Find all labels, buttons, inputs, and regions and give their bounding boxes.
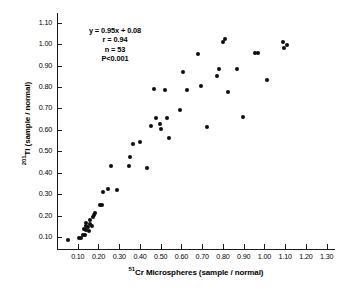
x-axis-tick [264, 244, 265, 249]
x-axis-tick [119, 244, 120, 249]
data-point [154, 116, 158, 120]
data-point [66, 238, 70, 242]
data-point [109, 164, 113, 168]
x-axis-tick [244, 244, 245, 249]
regression-equation: y = 0.95x + 0.08 [72, 26, 158, 35]
y-axis-tick [58, 44, 62, 45]
y-axis-tick-label: 0.90 [16, 62, 52, 70]
x-axis-tick [202, 244, 203, 249]
x-axis-tick [181, 244, 182, 249]
data-point [165, 116, 169, 120]
data-point [185, 88, 189, 92]
data-point [106, 187, 110, 191]
data-point [167, 136, 171, 140]
y-axis-title: 201Tl (sample / normal) [23, 39, 32, 209]
x-axis-line [57, 249, 335, 250]
y-axis-tick [58, 237, 62, 238]
y-axis-tick-label: 1.10 [16, 19, 52, 27]
y-axis-tick-label: 0.70 [16, 104, 52, 112]
y-axis-line [57, 13, 58, 249]
y-axis-tick [58, 87, 62, 88]
data-point [149, 124, 153, 128]
x-axis-tick-label: 0.10 [71, 253, 84, 261]
y-axis-tick [58, 108, 62, 109]
y-axis-tick [58, 173, 62, 174]
y-axis-title-base: Tl (sample / normal) [23, 82, 32, 156]
data-point [152, 87, 156, 91]
data-point [181, 70, 185, 74]
x-axis-tick [98, 244, 99, 249]
y-axis-tick-label: 0.30 [16, 190, 52, 198]
data-point [196, 52, 200, 56]
data-point [127, 164, 131, 168]
y-axis-tick [58, 23, 62, 24]
data-point [90, 224, 94, 228]
x-axis-tick [140, 244, 141, 249]
data-point [163, 88, 167, 92]
data-point [138, 140, 142, 144]
y-axis-tick-label: 1.00 [16, 40, 52, 48]
data-point [145, 166, 149, 170]
x-axis-tick-label: 0.30 [113, 253, 126, 261]
data-point [205, 125, 209, 129]
data-point [256, 51, 260, 55]
sample-size: n = 53 [72, 45, 158, 54]
x-axis-tick [78, 244, 79, 249]
data-point [217, 67, 221, 71]
data-point [158, 122, 162, 126]
x-axis-tick-label: 0.40 [133, 253, 146, 261]
data-point [223, 37, 227, 41]
data-point [235, 67, 239, 71]
data-point [101, 190, 105, 194]
y-axis-tick [58, 151, 62, 152]
data-point [226, 90, 230, 94]
x-axis-tick-label: 0.80 [216, 253, 229, 261]
y-axis-title-superscript: 201 [21, 155, 27, 165]
y-axis-tick-label: 0.40 [16, 169, 52, 177]
p-value: P<0.001 [72, 54, 158, 63]
data-point [93, 211, 97, 215]
y-axis-tick [58, 66, 62, 67]
x-axis-tick-label: 0.90 [237, 253, 250, 261]
y-axis-tick [58, 216, 62, 217]
data-point [199, 84, 203, 88]
data-point [115, 188, 119, 192]
data-point [131, 142, 135, 146]
x-axis-title-base: Cr Microspheres (sample / normal) [135, 268, 263, 277]
data-point [265, 78, 269, 82]
data-point [83, 233, 87, 237]
x-axis-tick [223, 244, 224, 249]
x-axis-tick-label: 1.00 [258, 253, 271, 261]
data-point [285, 43, 289, 47]
x-axis-tick-label: 1.20 [299, 253, 312, 261]
scatter-plot-figure: 0.100.200.300.400.500.600.700.800.901.00… [0, 0, 348, 292]
data-point [128, 155, 132, 159]
x-axis-tick-label: 0.70 [196, 253, 209, 261]
data-point [87, 229, 91, 233]
x-axis-tick [306, 244, 307, 249]
x-axis-tick-label: 0.50 [154, 253, 167, 261]
data-point [215, 74, 219, 78]
x-axis-tick-label: 0.60 [175, 253, 188, 261]
data-point [241, 115, 245, 119]
statistics-annotation: y = 0.95x + 0.08 r = 0.94 n = 53 P<0.001 [72, 26, 158, 64]
x-axis-tick-label: 0.20 [92, 253, 105, 261]
y-axis-tick-label: 0.10 [16, 233, 52, 241]
x-axis-tick-label: 1.30 [320, 253, 333, 261]
y-axis-tick [58, 194, 62, 195]
data-point [282, 46, 286, 50]
data-point [100, 203, 104, 207]
y-axis-tick-label: 0.80 [16, 83, 52, 91]
x-axis-title: 51Cr Microspheres (sample / normal) [57, 268, 335, 277]
y-axis-tick-label: 0.50 [16, 147, 52, 155]
y-axis-tick-label: 0.60 [16, 126, 52, 134]
data-point [178, 108, 182, 112]
x-axis-tick [327, 244, 328, 249]
y-axis-tick [58, 130, 62, 131]
correlation-coefficient: r = 0.94 [72, 35, 158, 44]
y-axis-tick-label: 0.20 [16, 212, 52, 220]
x-axis-tick-label: 1.10 [279, 253, 292, 261]
x-axis-tick [285, 244, 286, 249]
x-axis-tick [161, 244, 162, 249]
data-point [159, 127, 163, 131]
